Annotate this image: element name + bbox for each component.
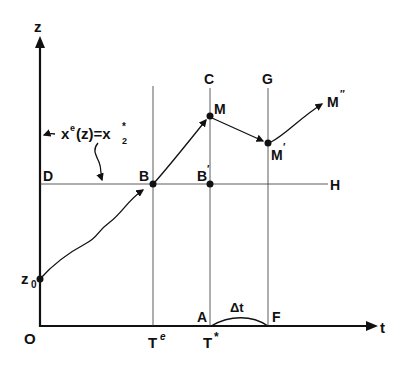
point-z0-dot [37,276,44,283]
point-D-label: D [43,168,53,184]
point-Bprime-mark: ′ [207,164,210,175]
trajectory-z0-to-B [40,190,143,279]
z0-subscript: 0 [31,279,37,290]
point-Mdprime-label: M [327,94,339,110]
point-Bprime-label: B [197,168,207,184]
equation-star: * [122,121,126,132]
tick-Te-sup: e [160,331,166,342]
point-F-label: F [272,309,281,325]
delta-t-label: Δt [230,300,244,315]
t-axis [39,321,378,331]
diagram-canvas: z t O C G M M ′ M ″ D B B ′ H A F z 0 T … [0,0,401,365]
equation-pointer-to-DH [95,143,102,180]
equation-pointer-to-axis [44,134,55,135]
trajectory-Mprime-to-Mdprime [271,104,322,142]
point-B-dot [150,181,157,188]
trajectory-M-to-Mprime [212,118,263,141]
t-axis-arrow-icon [366,321,378,331]
origin-label: O [24,330,36,347]
equation-body: (z)=x [76,125,111,142]
point-G-label: G [262,71,273,87]
point-A-label: A [197,309,207,325]
equation-sup-e: e [70,123,75,133]
tick-Tstar-sup: * [214,330,219,344]
tick-Tstar-label: T [203,334,212,351]
t-axis-label: t [380,319,385,336]
point-Mdprime-mark: ″ [340,89,345,100]
point-Mprime-label: M [271,147,283,163]
point-Mprime-dot [265,140,272,147]
point-Mprime-mark: ′ [283,142,286,153]
point-M-dot [207,113,214,120]
tick-Te-label: T [148,334,157,351]
point-B-label: B [139,168,149,184]
point-C-label: C [204,71,214,87]
point-H-label: H [330,177,340,193]
z0-label: z [21,270,29,287]
equation-label: x e (z)=x 2 * [61,121,127,146]
equation-x: x [61,125,70,142]
point-Bprime-dot [207,181,214,188]
equation-sub-2: 2 [122,136,127,146]
z-axis-arrow-icon [35,36,45,48]
delta-t-arc [211,318,268,326]
z-axis-label: z [34,18,42,35]
point-M-label: M [214,101,226,117]
